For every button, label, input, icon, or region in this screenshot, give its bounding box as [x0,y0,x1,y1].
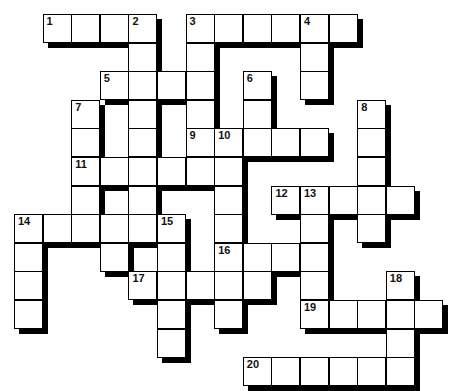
clue-number: 5 [104,73,110,84]
crossword-cell[interactable] [386,357,415,386]
clue-number: 18 [390,273,402,284]
crossword-cell[interactable] [300,214,329,243]
crossword-cell[interactable] [214,186,243,215]
crossword-cell[interactable] [71,128,100,157]
crossword-cell[interactable]: 12 [271,186,300,215]
crossword-cell[interactable] [186,100,215,129]
crossword-cell[interactable]: 8 [357,100,386,129]
crossword-cell[interactable]: 10 [214,128,243,157]
crossword-cell[interactable]: 15 [157,214,186,243]
crossword-cell[interactable] [214,300,243,329]
crossword-cell[interactable] [329,186,358,215]
crossword-cell[interactable] [186,271,215,300]
crossword-cell[interactable] [300,43,329,72]
crossword-cell[interactable]: 7 [71,100,100,129]
crossword-cell[interactable] [128,43,157,72]
crossword-cell[interactable] [100,243,129,272]
crossword-cell[interactable] [157,300,186,329]
clue-number: 14 [18,216,30,227]
crossword-cell[interactable] [243,271,272,300]
clue-number: 11 [75,159,87,170]
crossword-cell[interactable] [243,100,272,129]
crossword-cell[interactable] [357,157,386,186]
clue-number: 4 [304,16,310,27]
clue-number: 3 [190,16,196,27]
crossword-cell[interactable] [300,128,329,157]
crossword-cell[interactable] [214,214,243,243]
crossword-cell[interactable] [357,128,386,157]
crossword-cell[interactable] [300,357,329,386]
crossword-cell[interactable] [71,186,100,215]
crossword-cell[interactable] [14,271,43,300]
crossword-board: 1234956711810161213191415171820 [0,0,458,391]
crossword-cell[interactable] [243,128,272,157]
crossword-cell[interactable]: 2 [128,14,157,43]
crossword-cell[interactable] [14,300,43,329]
crossword-cell[interactable] [329,357,358,386]
crossword-cell[interactable] [128,100,157,129]
crossword-cell[interactable] [357,186,386,215]
crossword-cell[interactable] [357,214,386,243]
crossword-cell[interactable] [414,300,443,329]
crossword-cell[interactable]: 6 [243,71,272,100]
crossword-cell[interactable] [157,329,186,358]
crossword-cell[interactable] [271,357,300,386]
crossword-cell[interactable] [128,157,157,186]
crossword-cell[interactable] [214,14,243,43]
crossword-cell[interactable] [157,243,186,272]
crossword-cell[interactable]: 11 [71,157,100,186]
crossword-cell[interactable]: 20 [243,357,272,386]
crossword-cell[interactable]: 4 [300,14,329,43]
crossword-cell[interactable] [329,14,358,43]
crossword-cell[interactable] [100,214,129,243]
crossword-cell[interactable] [271,243,300,272]
crossword-cell[interactable] [71,214,100,243]
crossword-cell[interactable]: 5 [100,71,129,100]
crossword-cell[interactable] [243,14,272,43]
crossword-cell[interactable]: 16 [214,243,243,272]
crossword-cell[interactable] [329,300,358,329]
crossword-cell[interactable] [386,186,415,215]
crossword-cell[interactable] [186,71,215,100]
clue-number: 13 [304,188,316,199]
crossword-cell[interactable] [157,71,186,100]
crossword-cell[interactable] [128,128,157,157]
crossword-cell[interactable]: 3 [186,14,215,43]
crossword-cell[interactable]: 17 [128,271,157,300]
crossword-cell[interactable] [14,243,43,272]
crossword-cell[interactable]: 18 [386,271,415,300]
crossword-cell[interactable] [271,128,300,157]
crossword-cell[interactable] [71,14,100,43]
crossword-cell[interactable] [357,357,386,386]
crossword-cell[interactable]: 19 [300,300,329,329]
crossword-cell[interactable] [243,243,272,272]
crossword-cell[interactable] [300,271,329,300]
crossword-cell[interactable] [300,71,329,100]
crossword-cell[interactable] [100,157,129,186]
clue-number: 19 [304,302,316,313]
crossword-cell[interactable]: 13 [300,186,329,215]
crossword-cell[interactable] [186,157,215,186]
crossword-cell[interactable]: 1 [43,14,72,43]
crossword-cell[interactable]: 9 [186,128,215,157]
crossword-cell[interactable] [357,300,386,329]
crossword-cell[interactable] [157,157,186,186]
crossword-cell[interactable] [128,186,157,215]
crossword-cell[interactable] [214,157,243,186]
crossword-cell[interactable] [300,243,329,272]
crossword-cell[interactable] [128,71,157,100]
crossword-cell[interactable] [128,214,157,243]
crossword-cell[interactable] [43,214,72,243]
clue-number: 2 [132,16,138,27]
crossword-cell[interactable] [100,14,129,43]
clue-number: 16 [218,245,230,256]
clue-number: 8 [361,102,367,113]
crossword-cell[interactable] [271,14,300,43]
crossword-cell[interactable] [157,271,186,300]
crossword-cell[interactable]: 14 [14,214,43,243]
clue-number: 9 [190,130,196,141]
crossword-cell[interactable] [386,329,415,358]
crossword-cell[interactable] [214,271,243,300]
crossword-cell[interactable] [186,43,215,72]
crossword-cell[interactable] [386,300,415,329]
